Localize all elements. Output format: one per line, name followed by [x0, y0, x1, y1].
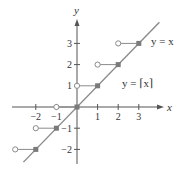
closed-endpoint-icon	[116, 62, 121, 67]
identity-line-label: y = x	[151, 35, 174, 47]
x-tick-label: −2	[30, 111, 41, 122]
y-tick-label: 3	[67, 38, 72, 49]
closed-endpoint-icon	[95, 83, 100, 88]
x-axis-label: x	[166, 101, 172, 113]
closed-endpoint-icon	[136, 41, 141, 46]
y-tick-label: 1	[67, 80, 72, 91]
x-tick-label: 1	[95, 111, 100, 122]
open-endpoint-icon	[116, 41, 121, 46]
x-tick-label: −1	[51, 111, 62, 122]
x-tick-label: 2	[116, 111, 121, 122]
plot-series	[13, 22, 160, 162]
y-tick-label: 2	[67, 59, 72, 70]
x-axis-arrow-icon	[157, 105, 164, 110]
closed-endpoint-icon	[54, 126, 59, 131]
y-axis-arrow-icon	[75, 19, 80, 26]
closed-endpoint-icon	[75, 105, 80, 110]
ceiling-function-label: y = ⌈x⌉	[122, 77, 153, 89]
open-endpoint-icon	[13, 147, 18, 152]
closed-endpoint-icon	[33, 147, 38, 152]
open-endpoint-icon	[95, 62, 100, 67]
ceiling-function-chart: −2−1123−2−1123 x y y = x y = ⌈x⌉	[0, 0, 183, 172]
open-endpoint-icon	[74, 83, 79, 88]
y-tick-label: −1	[61, 123, 72, 134]
x-tick-label: 3	[136, 111, 141, 122]
open-endpoint-icon	[33, 126, 38, 131]
y-axis-label: y	[73, 4, 79, 16]
open-endpoint-icon	[54, 104, 59, 109]
y-tick-label: −2	[61, 144, 72, 155]
